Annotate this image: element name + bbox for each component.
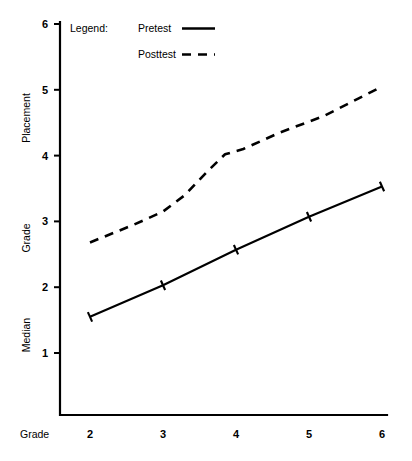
chart-background — [0, 0, 412, 461]
y-axis-tick-label-1: 1 — [42, 347, 48, 359]
x-axis-tick-label-6: 6 — [379, 428, 385, 440]
chart-container: 123456 23456 Placement Grade Median Grad… — [0, 0, 412, 461]
y-axis-title-part-median: Median — [20, 318, 32, 353]
y-axis-tick-label-3: 3 — [42, 215, 48, 227]
legend-label-pretest: Pretest — [138, 22, 171, 34]
x-axis-tick-label-4: 4 — [233, 428, 240, 440]
x-axis-tick-label-3: 3 — [160, 428, 166, 440]
line-chart: 123456 23456 Placement Grade Median Grad… — [0, 0, 412, 461]
x-axis-title: Grade — [20, 428, 49, 440]
legend-title: Legend: — [70, 22, 108, 34]
y-axis-title-part-placement: Placement — [20, 93, 32, 143]
y-axis-tick-label-5: 5 — [42, 84, 48, 96]
y-axis-tick-label-2: 2 — [42, 281, 48, 293]
y-axis-tick-label-4: 4 — [42, 150, 49, 162]
y-axis-tick-label-6: 6 — [42, 18, 48, 30]
y-axis-title-part-grade: Grade — [20, 223, 32, 252]
x-axis-tick-label-5: 5 — [306, 428, 312, 440]
x-axis-tick-label-2: 2 — [87, 428, 93, 440]
legend-label-posttest: Posttest — [138, 48, 176, 60]
